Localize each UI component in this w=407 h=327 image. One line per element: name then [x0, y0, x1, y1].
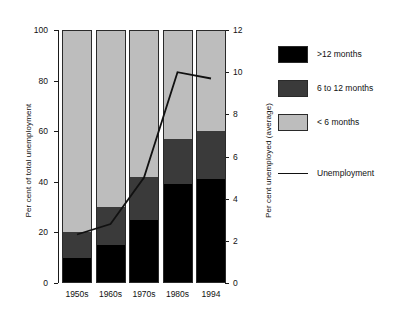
- bar-1994[interactable]: [196, 30, 226, 283]
- legend-label-over-12-months: >12 months: [317, 49, 362, 59]
- y-axis-right-tick-label: 0: [233, 278, 255, 288]
- bar-1950s[interactable]: [62, 30, 92, 283]
- y-axis-left-tick-label: 80: [26, 76, 48, 86]
- y-axis-right-tick-label: 2: [233, 236, 255, 246]
- bar-segment: [163, 30, 193, 139]
- y-axis-left-title: Per cent of total unemployment: [24, 81, 33, 241]
- y-axis-left-tick-label: 20: [26, 227, 48, 237]
- y-axis-left-tick-mark: [54, 81, 58, 82]
- bar-segment: [196, 30, 226, 131]
- y-axis-right-tick-label: 10: [233, 67, 255, 77]
- legend-label-under-6-months: < 6 months: [317, 117, 359, 127]
- y-axis-right-title: Per cent unemployed (average): [264, 81, 273, 241]
- bar-segment: [96, 30, 126, 207]
- bar-segment: [129, 177, 159, 220]
- y-axis-right-tick-label: 8: [233, 109, 255, 119]
- bar-segment: [163, 184, 193, 283]
- legend-item-over-12-months[interactable]: >12 months: [278, 40, 403, 68]
- bar-segment: [96, 207, 126, 245]
- y-axis-left-tick-mark: [54, 131, 58, 132]
- bar-1970s[interactable]: [129, 30, 159, 283]
- y-axis-left-tick-mark: [54, 232, 58, 233]
- y-axis-left-tick-mark: [54, 30, 58, 31]
- y-axis-right-tick-label: 6: [233, 152, 255, 162]
- y-axis-right-tick-label: 12: [233, 25, 255, 35]
- bar-1960s[interactable]: [96, 30, 126, 283]
- y-axis-left-tick-label: 40: [26, 177, 48, 187]
- bar-segment: [129, 30, 159, 177]
- legend-swatch-6-to-12-months: [278, 80, 308, 97]
- y-axis-left-tick-label: 100: [26, 25, 48, 35]
- legend-label-unemployment: Unemployment: [317, 168, 374, 178]
- bar-segment: [62, 30, 92, 232]
- bar-segment: [62, 232, 92, 257]
- bar-segment: [96, 245, 126, 283]
- bar-segment: [163, 139, 193, 185]
- y-axis-left-tick-mark: [54, 283, 58, 284]
- bar-1980s[interactable]: [163, 30, 193, 283]
- bar-segment: [129, 220, 159, 283]
- y-axis-right-tick-mark: [225, 283, 229, 284]
- bar-segment: [196, 179, 226, 283]
- y-axis-right-tick-label: 4: [233, 194, 255, 204]
- chart-figure: Per cent of total unemployment Per cent …: [0, 0, 407, 327]
- legend-item-unemployment[interactable]: Unemployment: [278, 166, 403, 180]
- y-axis-left-line: [58, 30, 59, 283]
- chart-legend: >12 months 6 to 12 months < 6 months Une…: [278, 40, 403, 180]
- y-axis-left-tick-label: 60: [26, 126, 48, 136]
- legend-item-under-6-months[interactable]: < 6 months: [278, 108, 403, 136]
- bar-segment: [196, 131, 226, 179]
- legend-line-icon: [278, 173, 308, 174]
- y-axis-left-tick-mark: [54, 182, 58, 183]
- legend-swatch-under-6-months: [278, 114, 308, 131]
- legend-label-6-to-12-months: 6 to 12 months: [317, 83, 373, 93]
- bar-segment: [62, 258, 92, 283]
- legend-item-6-to-12-months[interactable]: 6 to 12 months: [278, 74, 403, 102]
- y-axis-left-tick-label: 0: [26, 278, 48, 288]
- x-axis-tick-label-1994: 1994: [190, 289, 232, 299]
- legend-swatch-over-12-months: [278, 46, 308, 63]
